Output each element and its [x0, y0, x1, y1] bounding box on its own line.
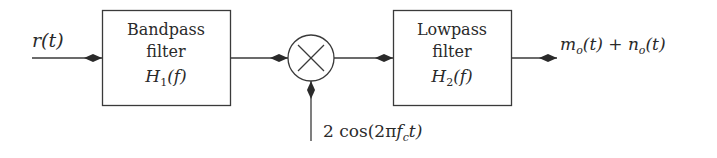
block-diagram: r(t) Bandpass filter H1(f) 2 cos(2πfct) … [0, 0, 717, 158]
arrowhead-icon [375, 54, 393, 62]
arrowhead-icon [539, 54, 557, 62]
bandpass-to-mixer-connector [230, 54, 288, 62]
bandpass-subtitle: filter [146, 42, 186, 61]
mixer-multiplier [288, 35, 334, 81]
bandpass-transfer-function: H1(f) [144, 66, 186, 89]
bandpass-filter-block: Bandpass filter H1(f) [103, 11, 231, 106]
input-connector [32, 54, 102, 62]
oscillator-label: 2 cos(2πfct) [323, 121, 422, 144]
bandpass-title: Bandpass [127, 20, 205, 39]
arrowhead-icon [270, 54, 288, 62]
oscillator-connector [307, 81, 315, 141]
arrowhead-icon [84, 54, 102, 62]
input-label: r(t) [32, 29, 64, 51]
lowpass-title: Lowpass [417, 20, 487, 39]
arrowhead-icon [307, 81, 315, 99]
output-connector [511, 54, 557, 62]
lowpass-subtitle: filter [432, 42, 472, 61]
lowpass-filter-block: Lowpass filter H2(f) [394, 11, 512, 106]
mixer-to-lowpass-connector [334, 54, 393, 62]
lowpass-transfer-function: H2(f) [430, 66, 472, 89]
output-label: mo(t) + no(t) [560, 34, 666, 57]
